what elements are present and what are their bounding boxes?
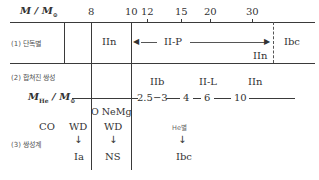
arrow-left-icon: ◀ <box>133 37 139 47</box>
row-label-single-star: (1) 단독별 <box>11 38 41 48</box>
arrow-down-icon: ↓ <box>74 135 82 145</box>
type-iin: IIn <box>248 76 262 87</box>
he-tick-6: 6 <box>204 92 210 103</box>
mass-tick-15: 15 <box>175 6 188 17</box>
he-axis-line-a <box>72 98 138 99</box>
row1-bottom-line <box>10 63 315 64</box>
type-ns: NS <box>105 151 121 162</box>
he-axis-title-text: M <box>28 91 39 102</box>
mass-tick-12: 12 <box>141 6 154 17</box>
sun-symbol: ⊙ <box>53 11 58 18</box>
he-axis-line-b <box>166 98 180 99</box>
he-axis-m: M <box>59 91 70 102</box>
type-iin-left: IIn <box>102 36 116 47</box>
mass-axis-title: M / M⊙ <box>20 5 58 18</box>
range-line-left <box>141 42 157 43</box>
arrow-down-icon: ↓ <box>109 135 117 145</box>
mass-tick-30: 30 <box>246 6 259 17</box>
he-subscript: He <box>39 97 49 104</box>
arrow-right-icon: ▶ <box>264 37 270 47</box>
axis-title-text: M / M <box>20 5 53 16</box>
dashed-divider-line <box>273 22 274 63</box>
he-tick-4: 4 <box>183 92 189 103</box>
type-iib: IIb <box>150 76 164 87</box>
divider-line-left <box>64 22 65 63</box>
row-label-binary-system: (3) 쌍성계 <box>11 139 41 149</box>
arrow-down-icon: ↓ <box>178 135 186 145</box>
type-ibc: Ibc <box>284 36 300 47</box>
he-tick-10: 10 <box>234 92 247 103</box>
he-axis-line-e <box>249 98 295 99</box>
wd-label-onemg: WD <box>104 121 122 132</box>
mass-tick-20: 20 <box>204 6 217 17</box>
he-axis-line-d <box>214 98 231 99</box>
he-axis-line-c <box>193 98 201 99</box>
divider-line-8 <box>91 22 92 170</box>
type-ibc-he: Ibc <box>176 151 192 162</box>
type-iin-right: IIn <box>253 50 267 61</box>
divider-line-10 <box>131 22 132 170</box>
row-label-merged-binary: (2) 합쳐진 쌍성 <box>11 72 55 82</box>
he-mass-axis-title: MHe / M⊙ <box>28 91 75 104</box>
type-ia: Ia <box>74 151 84 162</box>
mass-tick-10: 10 <box>125 6 138 17</box>
type-iil: II-L <box>199 76 217 87</box>
mass-axis-line <box>10 22 315 23</box>
he-tick-2-5-3: 2.5−3 <box>137 92 168 103</box>
wd-label-co: WD <box>69 121 87 132</box>
range-line-right <box>190 42 266 43</box>
co-label: CO <box>39 121 55 132</box>
type-iip: II-P <box>164 36 182 47</box>
mass-tick-8: 8 <box>88 6 94 17</box>
onemg-label: O NeMg <box>91 106 132 117</box>
he-star-label: He별 <box>172 122 187 132</box>
